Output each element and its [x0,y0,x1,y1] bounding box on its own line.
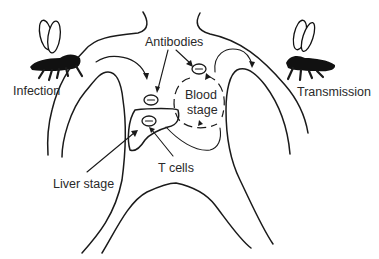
t-cells-arrow [152,130,173,156]
liver-stage-arrow [87,133,134,172]
arm-inner-right [226,69,290,244]
antibody-liver-upper [144,95,158,105]
antibody-arrow-left [158,50,168,89]
arm-inner-left [62,72,125,253]
liver-stage-arrowhead [131,130,138,137]
blood-stage-label-line1: Blood [185,88,217,102]
transmission-arrowhead [249,61,255,68]
legs-inner [102,183,251,253]
antibody-liver-inner [142,116,156,126]
blood-stage-label-line2: stage [187,103,218,117]
t-cells-label: T cells [158,161,194,175]
malaria-lifecycle-diagram: Antibodies Blood stage T cells Liver sta… [0,0,379,259]
antibodies-label: Antibodies [145,35,203,49]
antibody-blood [192,64,206,74]
antibody-arrow-right [176,50,190,63]
transmission-label: Transmission [297,85,371,99]
mosquito-left-icon [30,19,82,80]
infection-arrowhead [143,73,149,80]
antibody-arrow-right-head [186,60,193,67]
mosquito-right-icon [286,19,335,80]
liver-to-blood-path [166,127,221,150]
antibody-arrow-left-head [155,86,160,93]
infection-label: Infection [13,84,60,98]
body-outer-left [48,12,147,155]
liver-stage-label: Liver stage [53,177,114,191]
